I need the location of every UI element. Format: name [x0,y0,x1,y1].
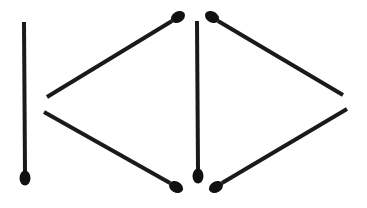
matchstick[interactable] [44,112,185,196]
matchstick-body [218,21,343,95]
matchstick-body [24,22,25,172]
matchstick-body [197,21,198,170]
matchstick-head-icon [20,171,31,186]
matchstick-body [222,109,347,183]
matchstick[interactable] [193,21,204,184]
matchstick[interactable] [20,22,31,186]
matchstick[interactable] [207,109,347,196]
matchstick[interactable] [203,8,343,95]
matchstick[interactable] [47,8,187,97]
matchstick-head-icon [193,169,204,184]
matchstick-body [44,112,170,183]
matchstick-body [47,21,172,97]
matchstick-puzzle-canvas [0,0,367,208]
